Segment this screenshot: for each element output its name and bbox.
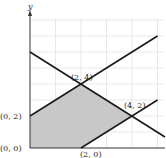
vertex-label-0-2: (0, 2)	[0, 112, 22, 121]
feasible-region	[30, 84, 132, 148]
vertex-label-0-0: (0, 0)	[0, 144, 22, 153]
y-axis-label: y	[27, 2, 33, 11]
vertex-label-2-0: (2, 0)	[80, 150, 102, 158]
vertex-label-4-2: (4, 2)	[124, 101, 146, 110]
feasible-region-diagram: y (0, 0) (0, 2) (2, 4) (4, 2) (2, 0)	[0, 0, 166, 158]
vertex-label-2-4: (2, 4)	[71, 73, 93, 82]
